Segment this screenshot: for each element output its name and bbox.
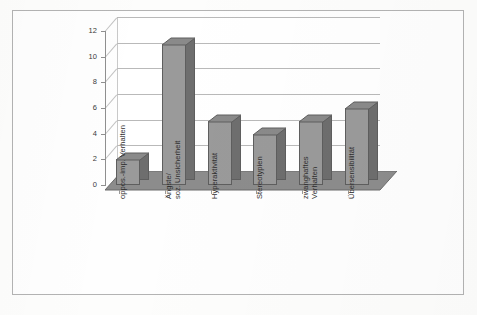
y-tick (101, 159, 106, 160)
figure-frame: 024681012 oppos.-imp. VerhaltenÄngste/so… (12, 10, 464, 295)
category-label-line: oppos.-imp. Verhalten (118, 125, 127, 199)
y-axis-tick-label: 12 (75, 27, 97, 35)
category-label-line: Hyperaktivität (210, 153, 219, 199)
y-tick (101, 82, 106, 83)
bar-side-face (323, 116, 332, 180)
gridline-depth-connector (105, 69, 118, 84)
category-label-line: Übersensibilität (347, 147, 356, 199)
category-label-line: zwanghaftes (301, 156, 310, 199)
bar-side-face (369, 103, 378, 180)
y-axis-tick-label: 8 (75, 78, 97, 86)
bar-top-face (345, 102, 369, 108)
bar-side-face (232, 116, 241, 180)
gridline-depth-connector (105, 94, 118, 109)
y-axis-tick-label: 0 (75, 181, 97, 189)
bar-top-face (162, 38, 186, 44)
y-tick (101, 57, 106, 58)
category-label-line: Ängste/ (164, 141, 173, 199)
gridline (117, 68, 380, 69)
gridline (117, 17, 380, 18)
category-label: oppos.-imp. Verhalten (118, 125, 127, 199)
bar-top-face (253, 128, 277, 134)
gridline (117, 94, 380, 95)
scanned-page: 024681012 oppos.-imp. VerhaltenÄngste/so… (0, 0, 477, 315)
bar-top-face (208, 115, 232, 121)
bar-top-face (299, 115, 323, 121)
bar-side-face (277, 129, 286, 180)
y-tick (101, 31, 106, 32)
category-label: zwanghaftesVerhalten (301, 156, 319, 199)
gridline-depth-connector (105, 120, 118, 135)
category-label: Übersensibilität (347, 147, 356, 199)
category-label: Ängste/soz. Unsicherheit (164, 141, 182, 199)
y-axis-tick-label: 4 (75, 130, 97, 138)
gridline (117, 43, 380, 44)
y-axis-tick-label: 6 (75, 104, 97, 112)
bar-chart: 024681012 oppos.-imp. VerhaltenÄngste/so… (13, 11, 465, 296)
y-tick (101, 134, 106, 135)
y-axis-tick-label: 10 (75, 53, 97, 61)
y-tick (101, 108, 106, 109)
category-label: Stereotypien (255, 156, 264, 199)
gridline (117, 145, 380, 146)
category-label-line: Stereotypien (255, 156, 264, 199)
category-label-line: soz. Unsicherheit (173, 141, 182, 199)
category-label-line: Verhalten (310, 156, 319, 199)
gridline-depth-connector (105, 43, 118, 58)
category-label: Hyperaktivität (210, 153, 219, 199)
y-axis-tick-label: 2 (75, 155, 97, 163)
gridline (117, 120, 380, 121)
bar-side-face (186, 39, 195, 180)
gridline-depth-connector (105, 17, 118, 32)
